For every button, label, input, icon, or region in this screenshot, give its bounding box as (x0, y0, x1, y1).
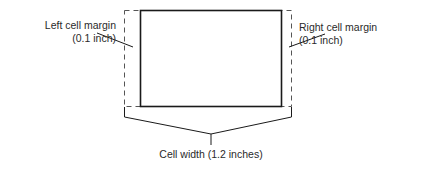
cell-width-bracket (125, 107, 292, 145)
cell-width-label: Cell width (1.2 inches) (111, 148, 311, 161)
left-margin-label-value: (0.1 inch) (16, 32, 116, 45)
right-margin-label: Right cell margin (0.1 inch) (299, 21, 377, 47)
cell-content-box (141, 11, 282, 107)
left-margin-label-title: Left cell margin (16, 19, 116, 32)
left-margin-label: Left cell margin (0.1 inch) (16, 19, 116, 45)
right-margin-label-title: Right cell margin (299, 21, 377, 34)
right-margin-label-value: (0.1 inch) (299, 34, 377, 47)
